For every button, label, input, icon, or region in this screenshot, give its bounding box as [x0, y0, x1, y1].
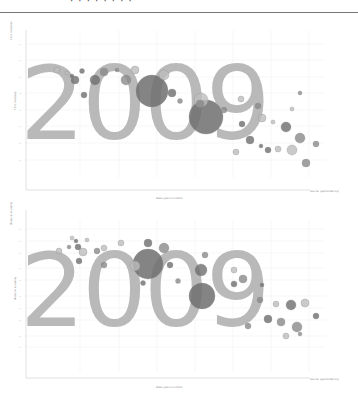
data-bubble [255, 103, 261, 109]
chart-1-y-axis-title: Child mortality [10, 21, 13, 40]
chart-2-y-label: Maternal mortality [14, 276, 17, 300]
data-bubble [130, 261, 140, 271]
data-bubble [90, 75, 100, 85]
data-bubble [264, 315, 272, 323]
data-bubble [302, 159, 310, 167]
data-bubble [159, 243, 169, 253]
data-bubble [167, 262, 173, 268]
data-bubble [67, 245, 71, 249]
data-bubble [259, 144, 263, 148]
data-bubble [94, 248, 100, 254]
data-bubble [196, 100, 204, 108]
chart-1-y-label: Child mortality [14, 91, 17, 110]
data-bubble [195, 264, 207, 276]
svg-text:·: · [308, 192, 309, 195]
chart-1-canvas: ——— ——— —— ··· ··· 2009 Mean years in sc… [0, 0, 358, 200]
svg-text:·: · [270, 192, 271, 195]
data-bubble [168, 89, 176, 97]
data-bubble [246, 136, 254, 144]
data-bubble [298, 332, 302, 336]
data-bubble [74, 239, 78, 243]
svg-text:·: · [270, 380, 271, 383]
chart-1-source-note: Source: gapminder.org [310, 190, 339, 193]
chart-2-canvas: ——— ——— ——— — ··· ··· 2009 Mean years in… [0, 200, 358, 401]
data-bubble [81, 92, 87, 98]
data-bubble [141, 281, 146, 286]
data-bubble [257, 297, 263, 303]
chart-2-y-axis-title: Maternal mortality [10, 201, 13, 225]
data-bubble [231, 281, 237, 287]
data-bubble [233, 149, 239, 155]
bubble-chart-maternal-mortality: ——— ——— ——— — ··· ··· 2009 Mean years in… [0, 200, 358, 401]
svg-text:·: · [308, 380, 309, 383]
data-bubble [239, 121, 245, 127]
data-bubble [101, 245, 107, 251]
data-bubble [221, 107, 227, 113]
data-bubble [281, 122, 291, 132]
chart-2-source-note: Source: gapminder.org [310, 378, 339, 381]
data-bubble [286, 300, 296, 310]
data-bubble [80, 69, 85, 74]
svg-text:·: · [194, 380, 195, 383]
data-bubble [202, 252, 208, 258]
data-bubble [275, 146, 281, 152]
data-bubble [189, 283, 215, 309]
data-bubble [176, 279, 181, 284]
data-bubble [239, 275, 247, 283]
data-bubble [258, 114, 266, 122]
data-bubble [159, 70, 169, 80]
data-bubble [56, 248, 62, 254]
data-bubble [65, 71, 69, 75]
data-bubble [287, 145, 297, 155]
data-bubble [75, 244, 81, 250]
data-bubble [290, 107, 294, 111]
chart-2-x-label: Mean years in school [156, 386, 183, 389]
svg-text:·: · [232, 380, 233, 383]
svg-text:·: · [156, 380, 157, 383]
data-bubble [245, 323, 251, 329]
data-bubble [231, 267, 237, 273]
data-bubble [118, 240, 124, 246]
data-bubble [292, 322, 302, 332]
data-bubble [283, 333, 289, 339]
data-bubble [295, 133, 305, 143]
data-bubble [238, 96, 244, 102]
svg-text:·: · [232, 192, 233, 195]
data-bubble [301, 299, 309, 307]
data-bubble [144, 239, 152, 247]
chart-2-x-ticks: ··· ··· [118, 380, 309, 383]
data-bubble [76, 258, 82, 264]
data-bubble [178, 99, 183, 104]
data-bubble [298, 91, 302, 95]
data-bubble [260, 283, 264, 287]
data-bubble [115, 68, 119, 72]
svg-text:·: · [118, 380, 119, 383]
bubble-chart-child-mortality: ——— ——— —— ··· ··· 2009 Mean years in sc… [0, 0, 358, 200]
svg-text:·: · [156, 192, 157, 195]
data-bubble [70, 236, 74, 240]
data-bubble [273, 301, 279, 307]
data-bubble [101, 262, 107, 268]
chart-1-x-ticks: ··· ··· [118, 192, 309, 195]
data-bubble [70, 74, 74, 78]
data-bubble [313, 141, 319, 147]
svg-text:·: · [194, 192, 195, 195]
data-bubble [313, 313, 319, 319]
data-bubble [54, 67, 60, 73]
svg-text:·: · [118, 192, 119, 195]
data-bubble [85, 238, 89, 242]
data-bubble [271, 120, 275, 124]
data-bubble [100, 68, 108, 76]
data-bubble [265, 147, 271, 153]
data-bubble [277, 318, 285, 326]
data-bubble [121, 75, 131, 85]
data-bubble [131, 66, 139, 74]
